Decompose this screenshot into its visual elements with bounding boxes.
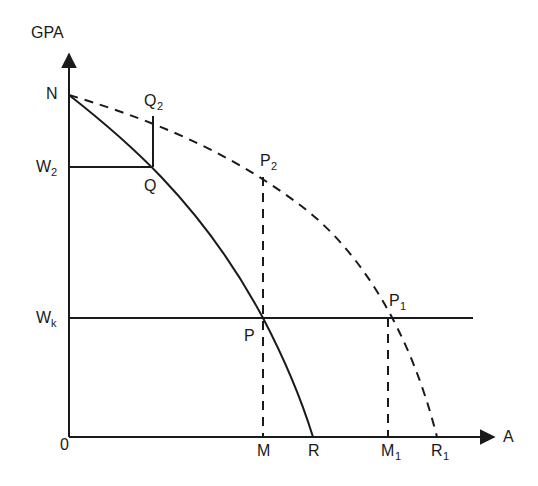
label-Q: Q — [144, 177, 156, 194]
dashed-curve-NR1 — [69, 95, 437, 437]
origin-label: 0 — [60, 436, 69, 453]
label-Q2-sub: 2 — [157, 100, 163, 112]
label-Q2: Q — [144, 92, 156, 109]
label-M1-sub: 1 — [395, 450, 401, 462]
label-N: N — [46, 85, 58, 102]
label-P1: P — [389, 292, 400, 309]
label-P: P — [244, 327, 255, 344]
label-Wk: W — [36, 309, 52, 326]
label-M1: M — [381, 442, 394, 459]
label-P2-sub: 2 — [271, 160, 277, 172]
label-W2-sub: 2 — [51, 166, 57, 178]
x-axis-label: A — [503, 428, 514, 445]
label-Wk-sub: k — [51, 317, 57, 329]
label-R1-sub: 1 — [443, 450, 449, 462]
label-R: R — [308, 442, 320, 459]
label-W2: W — [36, 158, 52, 175]
label-M: M — [257, 442, 270, 459]
diagram-canvas: GPA A 0 N Q 2 W 2 Q P 2 W k P P 1 M R M … — [0, 0, 538, 486]
label-P2: P — [260, 152, 271, 169]
label-P1-sub: 1 — [400, 300, 406, 312]
solid-curve-NR — [69, 95, 313, 437]
y-axis-label: GPA — [31, 24, 64, 41]
label-R1: R — [431, 442, 443, 459]
